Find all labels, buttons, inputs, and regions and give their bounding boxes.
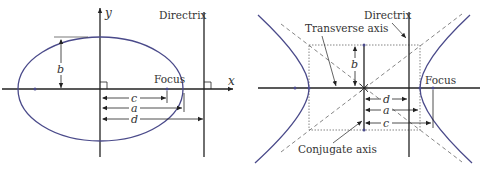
hyperbola-a-label: a — [383, 104, 390, 117]
y-axis-label: y — [104, 6, 112, 20]
hyperbola-c-label: c — [383, 117, 389, 130]
hyperbola-focus-label: Focus — [425, 74, 456, 86]
hyperbola-focus-right — [432, 87, 435, 90]
hyperbola-panel: Directrix Focus Transverse axis Conjugat… — [255, 9, 480, 163]
ellipse-b-label: b — [57, 63, 64, 76]
conjugate-vertex-bottom — [363, 129, 366, 132]
x-axis-label: x — [228, 74, 235, 88]
ellipse-panel: x y Directrix Focus b c a d — [2, 6, 235, 157]
right-angle-mark-directrix — [204, 82, 211, 89]
vertex-right — [418, 86, 421, 89]
ellipse-focus-left — [34, 88, 37, 91]
hyperbola-focus-left — [294, 87, 297, 90]
hyperbola-b-label: b — [351, 58, 358, 71]
directrix-pointer — [392, 23, 406, 38]
ellipse-d-label: d — [131, 113, 138, 126]
hyperbola-directrix-label: Directrix — [364, 9, 411, 21]
conjugate-axis-label: Conjugate axis — [298, 143, 377, 155]
conic-sections-figure: x y Directrix Focus b c a d — [0, 0, 480, 170]
ellipse-focus-label: Focus — [154, 73, 185, 85]
hyperbola-left-branch — [255, 15, 309, 163]
conjugate-vertex-top — [363, 44, 366, 47]
right-angle-mark-origin — [100, 82, 107, 89]
ellipse-focus-right — [166, 88, 169, 91]
vertex-left — [307, 86, 310, 89]
transverse-axis-pointer — [322, 36, 336, 86]
transverse-axis-label: Transverse axis — [305, 22, 388, 34]
ellipse-directrix-label: Directrix — [159, 9, 206, 21]
conjugate-axis-pointer — [333, 121, 362, 143]
hyperbola-right-branch — [420, 15, 472, 163]
